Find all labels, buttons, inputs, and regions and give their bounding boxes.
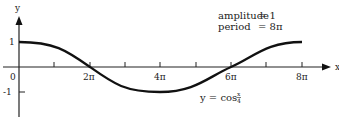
y-tick-neg1-label: -1	[3, 87, 12, 97]
x-axis-arrow-icon	[322, 64, 331, 71]
equation-denominator: 4	[237, 97, 241, 104]
origin-label: 0	[10, 72, 16, 82]
x-ticks	[54, 62, 302, 67]
period-value: = 8π	[258, 21, 283, 32]
y-tick-1-label: 1	[9, 37, 15, 47]
x-tick-6pi-label: 6π	[225, 72, 237, 82]
y-axis-label: y	[14, 3, 21, 13]
axes	[3, 22, 326, 117]
cosine-chart: y x 0 1 -1 2π 4π 6π 8π amplitude = 1 per…	[0, 0, 339, 121]
x-tick-4pi-label: 4π	[154, 72, 166, 82]
x-tick-8pi-label: 8π	[296, 72, 308, 82]
period-label: period	[218, 21, 251, 32]
x-axis-label: x	[335, 62, 339, 72]
y-axis-arrow-icon	[16, 16, 23, 25]
equation-numerator: x	[237, 90, 241, 97]
x-tick-2pi-label: 2π	[83, 72, 95, 82]
equation-label: y = cos	[199, 92, 237, 103]
amplitude-value: = 1	[258, 10, 276, 21]
